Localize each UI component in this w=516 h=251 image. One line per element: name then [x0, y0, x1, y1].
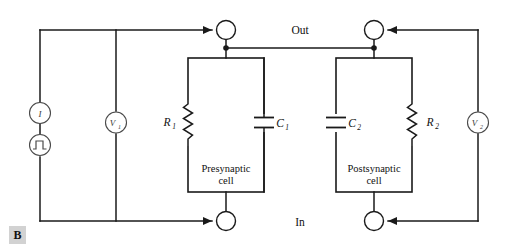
postsynaptic-cell: C 2 R 2 Postsynaptic cell	[326, 58, 439, 211]
current-source[interactable]: I	[30, 103, 51, 124]
voltmeter-2[interactable]: V 2	[468, 112, 489, 133]
circuit-diagram: I V 1 V 2	[0, 0, 516, 251]
resistor-1-subscript: 1	[172, 122, 176, 131]
capacitor-1-label: C	[276, 117, 284, 129]
arrow-into-bottom-right-electrode	[388, 217, 397, 225]
electrode-presynaptic-out[interactable]	[217, 21, 236, 40]
pulse-generator-circle	[30, 135, 51, 156]
electrode-presynaptic-in[interactable]	[217, 212, 236, 231]
electrode-postsynaptic-out[interactable]	[365, 21, 384, 40]
capacitor-1-subscript: 1	[285, 123, 289, 132]
resistor-1-label: R	[162, 116, 170, 128]
out-bus-wiring	[223, 40, 377, 58]
postsynaptic-cell-title-line2: cell	[366, 175, 381, 186]
resistor-2-label: R	[425, 116, 433, 128]
pulse-generator[interactable]	[30, 135, 51, 156]
presynaptic-cell: R 1 C 1 Presynaptic cell	[162, 58, 288, 211]
voltmeter-1-circle	[106, 112, 127, 133]
arrow-into-top-left-electrode	[203, 26, 212, 34]
presynaptic-cell-title-line2: cell	[218, 175, 233, 186]
voltmeter-1-subscript: 1	[118, 124, 121, 130]
capacitor-2-label: C	[348, 117, 356, 129]
label-in: In	[295, 216, 305, 228]
electrode-postsynaptic-in[interactable]	[365, 212, 384, 231]
panel-label-badge: B	[9, 226, 26, 244]
voltmeter-1[interactable]: V 1	[106, 112, 127, 133]
arrow-into-bottom-left-electrode	[203, 217, 212, 225]
arrow-into-top-right-electrode	[388, 26, 397, 34]
postsynaptic-cell-title-line1: Postsynaptic	[347, 163, 400, 174]
figure-panel-b: I V 1 V 2	[0, 0, 516, 251]
capacitor-2-subscript: 2	[357, 123, 361, 132]
label-out: Out	[291, 24, 309, 36]
voltmeter-2-circle	[468, 112, 489, 133]
presynaptic-cell-title-line1: Presynaptic	[202, 163, 251, 174]
resistor-2-subscript: 2	[435, 122, 439, 131]
voltmeter-2-subscript: 2	[480, 124, 483, 130]
